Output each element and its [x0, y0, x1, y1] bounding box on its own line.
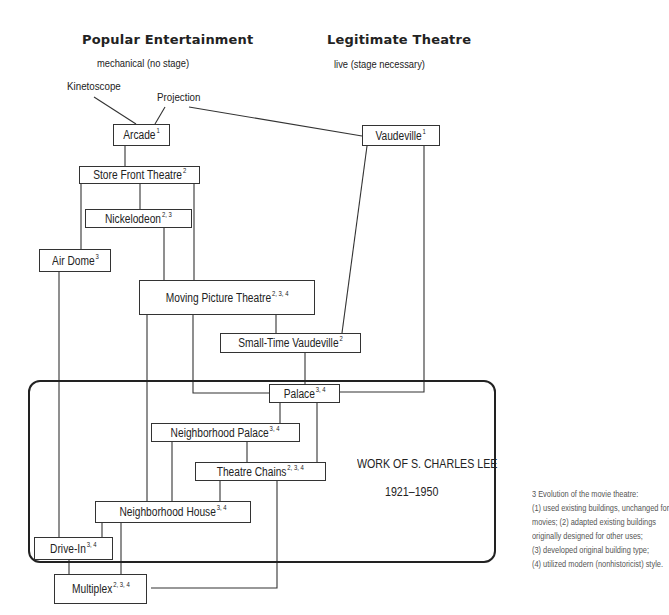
node-air-dome: Air Dome3	[39, 249, 111, 272]
node-nickelodeon-footnote: 2, 3	[162, 211, 172, 218]
popular-entertainment-heading: Popular Entertainment	[82, 32, 254, 47]
node-neighborhood-house-footnote: 3, 4	[217, 504, 227, 511]
node-store-front-theatre-footnote: 2	[183, 167, 186, 174]
node-neighborhood-palace: Neighborhood Palace3, 4	[151, 423, 300, 442]
node-moving-picture-theatre-label: Moving Picture Theatre	[166, 291, 271, 305]
node-drive-in-footnote: 3, 4	[87, 541, 97, 548]
node-vaudeville: Vaudeville1	[362, 125, 440, 146]
kinetoscope-label: Kinetoscope	[67, 80, 121, 92]
node-multiplex-label: Multiplex	[72, 582, 112, 596]
node-theatre-chains: Theatre Chains2, 3, 4	[195, 462, 326, 481]
node-small-time-vaudeville-label: Small-Time Vaudeville	[238, 336, 338, 350]
node-vaudeville-footnote: 1	[423, 128, 426, 135]
node-arcade-label: Arcade	[123, 128, 155, 142]
node-palace-footnote: 3, 4	[316, 386, 326, 393]
node-moving-picture-theatre: Moving Picture Theatre2, 3, 4	[139, 280, 315, 315]
node-store-front-theatre: Store Front Theatre2	[79, 166, 200, 184]
footnote-line: 3 Evolution of the movie theatre:	[532, 487, 669, 501]
node-drive-in-label: Drive-In	[50, 542, 86, 556]
node-air-dome-footnote: 3	[95, 253, 98, 260]
node-neighborhood-palace-label: Neighborhood Palace	[171, 426, 269, 440]
node-multiplex: Multiplex2, 3, 4	[54, 574, 147, 604]
popular-entertainment-subtitle: mechanical (no stage)	[97, 57, 189, 69]
s-charles-lee-title: WORK OF S. CHARLES LEE	[357, 456, 497, 471]
node-drive-in: Drive-In3, 4	[34, 537, 113, 560]
node-small-time-vaudeville-footnote: 2	[339, 335, 342, 342]
legitimate-theatre-heading: Legitimate Theatre	[327, 32, 471, 47]
s-charles-lee-years: 1921–1950	[385, 484, 438, 499]
node-theatre-chains-label: Theatre Chains	[217, 465, 287, 479]
projection-label: Projection	[157, 91, 200, 103]
footnote-line: originally designed for other uses;	[532, 529, 669, 543]
node-neighborhood-house: Neighborhood House3, 4	[95, 501, 251, 523]
node-store-front-theatre-label: Store Front Theatre	[93, 168, 182, 182]
node-multiplex-footnote: 2, 3, 4	[113, 581, 130, 588]
node-vaudeville-label: Vaudeville	[376, 129, 422, 143]
node-neighborhood-palace-footnote: 3, 4	[270, 425, 280, 432]
footnote-evolution: 3 Evolution of the movie theatre: (1) us…	[532, 487, 669, 571]
footnote-line: (3) developed original building type;	[532, 543, 669, 557]
node-nickelodeon: Nickelodeon2, 3	[85, 209, 192, 228]
node-neighborhood-house-label: Neighborhood House	[119, 505, 215, 519]
node-moving-picture-theatre-footnote: 2, 3, 4	[272, 290, 289, 297]
footnote-line: (1) used existing buildings, unchanged f…	[532, 501, 669, 515]
node-palace-label: Palace	[284, 387, 315, 401]
node-air-dome-label: Air Dome	[52, 254, 95, 268]
node-arcade-footnote: 1	[156, 127, 159, 134]
node-palace: Palace3, 4	[269, 384, 340, 403]
node-nickelodeon-label: Nickelodeon	[105, 212, 161, 226]
node-theatre-chains-footnote: 2, 3, 4	[288, 464, 305, 471]
footnote-line: movies; (2) adapted existing buildings	[532, 515, 669, 529]
node-small-time-vaudeville: Small-Time Vaudeville2	[220, 333, 361, 353]
footnote-line: (4) utilized modern (nonhistoricist) sty…	[532, 557, 669, 571]
node-arcade: Arcade1	[113, 124, 170, 146]
legitimate-theatre-subtitle: live (stage necessary)	[334, 58, 425, 70]
